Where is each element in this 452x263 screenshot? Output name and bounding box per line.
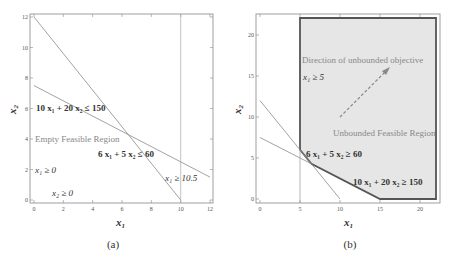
x-tick-label: 8 [150, 206, 153, 212]
annotation-constraint-2: 10 x₁ + 20 x₂ ≥ 150 [353, 177, 423, 187]
panel-b: 0 5 10 15 20 0 5 10 15 20 Direction of u… [231, 14, 440, 251]
annotation-objective: 10 x₁ + 20 x₂ ≤ 150 [36, 103, 106, 113]
x-axis-label-b: x1 [343, 216, 353, 230]
figure: 0 2 4 6 8 10 12 0 2 4 6 8 10 12 10 x₁ + … [0, 0, 452, 263]
x-tick-label: 2 [62, 206, 65, 212]
x-tick-label: 10 [337, 206, 343, 212]
x-tick-label: 0 [33, 206, 36, 212]
x-tick-label: 15 [377, 206, 383, 212]
y-tick-label: 8 [25, 75, 28, 81]
annotation-region: Unbounded Feasible Region [333, 128, 436, 138]
y-tick-label: 15 [248, 73, 254, 79]
caption-b: (b) [344, 238, 357, 251]
y-tick-label: 4 [25, 136, 28, 142]
x-tick-label: 10 [178, 206, 184, 212]
caption-a: (a) [107, 238, 120, 251]
x-tick-label: 5 [299, 206, 302, 212]
y-tick-label: 10 [248, 114, 254, 120]
panel-a: 0 2 4 6 8 10 12 0 2 4 6 8 10 12 10 x₁ + … [6, 14, 213, 251]
x-tick-label: 4 [91, 206, 94, 212]
annotation-x1-nonneg: x₁ ≥ 0 [34, 165, 57, 175]
annotation-constraint-1: 6 x₁ + 5 x₂ ≥ 60 [306, 149, 362, 159]
y-tick-label: 0 [251, 196, 254, 202]
y-tick-label: 10 [22, 45, 28, 51]
y-tick-label: 20 [248, 32, 254, 38]
x-tick-label: 0 [259, 206, 262, 212]
y-tick-label: 12 [22, 14, 28, 20]
annotation-empty-region: Empty Feasible Region [35, 134, 120, 144]
y-tick-label: 5 [251, 155, 254, 161]
y-axis-label-a: x2 [6, 105, 20, 116]
y-tick-label: 2 [25, 167, 28, 173]
annotation-x1-min: x₁ ≥ 5 [302, 72, 325, 82]
annotation-x2-nonneg: x₂ ≥ 0 [51, 188, 74, 198]
x-axis-label-a: x1 [115, 216, 125, 230]
x-tick-label: 20 [417, 206, 423, 212]
x-tick-label: 6 [121, 206, 124, 212]
annotation-x1-min: x₁ ≥ 10.5 [164, 173, 198, 183]
y-tick-label: 6 [25, 106, 28, 112]
y-axis-label-b: x2 [231, 105, 245, 116]
annotation-constraint-1: 6 x₁ + 5 x₂ ≤ 60 [98, 149, 154, 159]
y-tick-label: 0 [25, 197, 28, 203]
x-tick-label: 12 [207, 206, 213, 212]
annotation-direction: Direction of unbounded objective [302, 55, 423, 65]
